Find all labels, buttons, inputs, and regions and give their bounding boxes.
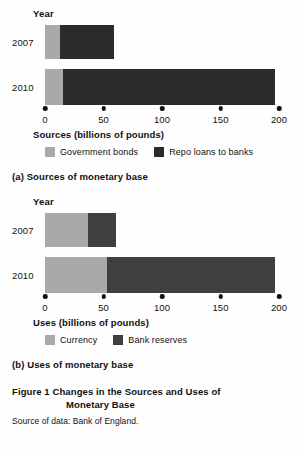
axis-tick-label: 0	[42, 114, 47, 125]
legend-uses: CurrencyBank reserves	[45, 335, 289, 345]
axis-tick-dot	[43, 106, 48, 111]
axis-tick-dot	[160, 106, 165, 111]
bar-segment-government-bonds[interactable]	[45, 25, 60, 59]
legend-item[interactable]: Repo loans to banks	[154, 147, 253, 157]
value-axis-uses: 050100150200	[45, 293, 279, 317]
legend-label: Currency	[60, 335, 97, 345]
axis-tick-dot	[160, 294, 165, 299]
bar-row-2010-sources: 2010	[12, 69, 289, 105]
category-label-2010-sources: 2010	[12, 82, 42, 93]
axis-tick-label: 200	[271, 114, 287, 125]
figure-title-line-2: Monetary Base	[66, 399, 289, 412]
axis-tick-dot	[277, 294, 282, 299]
figure-page: Year 2007 2010 050100150200 Sources (bil…	[0, 0, 301, 451]
bar-segment-bank-reserves[interactable]	[107, 257, 275, 293]
figure-title-line-1: Figure 1 Changes in the Sources and Uses…	[12, 386, 221, 397]
axis-tick-label: 100	[154, 114, 170, 125]
legend-label: Government bonds	[60, 147, 138, 157]
legend-swatch-icon	[154, 147, 164, 157]
legend-item[interactable]: Currency	[45, 335, 97, 345]
legend-label: Bank reserves	[128, 335, 187, 345]
axis-tick-label: 100	[154, 302, 170, 313]
bar-row-2007-uses: 2007	[12, 213, 289, 247]
legend-label: Repo loans to banks	[169, 147, 253, 157]
category-label-2007-uses: 2007	[12, 225, 42, 236]
bar-segment-currency[interactable]	[45, 257, 107, 293]
bar-segment-repo-loans-to-banks[interactable]	[60, 25, 114, 59]
axis-tick-dot	[43, 294, 48, 299]
axis-tick-label: 150	[213, 302, 229, 313]
category-label-2010-uses: 2010	[12, 270, 42, 281]
source-note: Source of data: Bank of England.	[12, 416, 289, 426]
bar-segment-government-bonds[interactable]	[45, 69, 63, 105]
axis-tick-label: 50	[98, 302, 109, 313]
legend-swatch-icon	[45, 147, 55, 157]
legend-swatch-icon	[45, 335, 55, 345]
axis-tick-dot	[101, 106, 106, 111]
axis-tick-label: 50	[98, 114, 109, 125]
panel-caption-b: (b) Uses of monetary base	[12, 359, 289, 370]
axis-tick-label: 0	[42, 302, 47, 313]
value-axis-caption-sources: Sources (billions of pounds)	[33, 129, 289, 140]
category-label-2007-sources: 2007	[12, 37, 42, 48]
legend-swatch-icon	[113, 335, 123, 345]
axis-tick-dot	[277, 106, 282, 111]
bar-row-2007-sources: 2007	[12, 25, 289, 59]
legend-item[interactable]: Bank reserves	[113, 335, 187, 345]
axis-tick-label: 150	[213, 114, 229, 125]
year-axis-label-a: Year	[33, 8, 289, 19]
axis-tick-dot	[101, 294, 106, 299]
value-axis-caption-uses: Uses (billions of pounds)	[33, 317, 289, 328]
chart-sources-monetary-base: Year 2007 2010 050100150200 Sources (bil…	[12, 8, 289, 157]
axis-tick-dot	[218, 106, 223, 111]
bar-row-2010-uses: 2010	[12, 257, 289, 293]
plot-area-a: 2007 2010	[12, 25, 289, 105]
bar-segment-bank-reserves[interactable]	[88, 213, 116, 247]
axis-tick-dot	[218, 294, 223, 299]
stacked-bar-2007-uses[interactable]	[45, 213, 116, 247]
figure-title: Figure 1 Changes in the Sources and Uses…	[12, 386, 289, 411]
plot-area-b: 2007 2010	[12, 213, 289, 293]
legend-sources: Government bondsRepo loans to banks	[45, 147, 289, 157]
axis-tick-label: 200	[271, 302, 287, 313]
stacked-bar-2007-sources[interactable]	[45, 25, 114, 59]
value-axis-sources: 050100150200	[45, 105, 279, 129]
legend-item[interactable]: Government bonds	[45, 147, 138, 157]
bar-segment-currency[interactable]	[45, 213, 88, 247]
bar-segment-repo-loans-to-banks[interactable]	[63, 69, 276, 105]
year-axis-label-b: Year	[33, 196, 289, 207]
chart-uses-monetary-base: Year 2007 2010 050100150200 Uses (billio…	[12, 196, 289, 345]
stacked-bar-2010-uses[interactable]	[45, 257, 275, 293]
stacked-bar-2010-sources[interactable]	[45, 69, 275, 105]
panel-caption-a: (a) Sources of monetary base	[12, 171, 289, 182]
